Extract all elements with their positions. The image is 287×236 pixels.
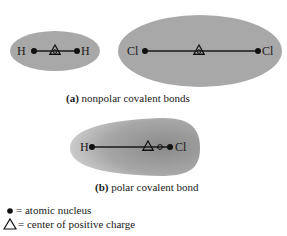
atom-label: H bbox=[80, 140, 89, 155]
atom-label: Cl bbox=[175, 140, 186, 155]
legend-positive-charge-icon bbox=[4, 219, 16, 229]
nucleus-icon bbox=[255, 48, 261, 54]
nucleus-icon bbox=[89, 144, 95, 150]
caption-panel-b: (b) polar covalent bond bbox=[95, 181, 199, 193]
nucleus-icon bbox=[142, 48, 148, 54]
legend-positive-charge: = center of positive charge bbox=[18, 218, 135, 230]
caption-label: (a) bbox=[66, 92, 79, 104]
atom-label: Cl bbox=[127, 44, 138, 59]
caption-panel-a: (a) nonpolar covalent bonds bbox=[66, 92, 190, 104]
legend-nucleus-icon bbox=[7, 208, 13, 214]
caption-label: (b) bbox=[95, 181, 108, 193]
bond-diagram bbox=[0, 0, 287, 236]
nucleus-icon bbox=[74, 48, 80, 54]
nucleus-icon bbox=[31, 48, 37, 54]
atom-label: H bbox=[81, 44, 90, 59]
atom-label: Cl bbox=[262, 44, 273, 59]
nucleus-icon bbox=[167, 144, 173, 150]
legend-nucleus: = atomic nucleus bbox=[16, 204, 91, 216]
caption-text: polar covalent bond bbox=[108, 181, 198, 193]
caption-text: nonpolar covalent bonds bbox=[79, 92, 190, 104]
atom-label: H bbox=[17, 44, 26, 59]
